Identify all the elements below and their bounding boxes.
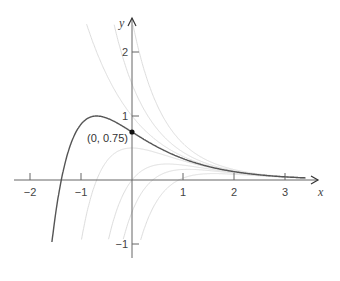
family-curve: [133, 25, 305, 178]
tick-marks: −2−1123−112: [24, 46, 288, 250]
x-tick-label: 1: [180, 186, 186, 198]
x-tick-label: −2: [24, 186, 37, 198]
family-curve: [141, 174, 306, 240]
initial-point-marker: [129, 129, 134, 134]
family-curve: [109, 164, 306, 239]
solution-curves-chart: −2−1123−112 x y (0, 0.75): [0, 0, 340, 281]
y-tick-label: 2: [122, 46, 128, 58]
family-curve: [114, 25, 305, 178]
y-tick-label: −1: [115, 238, 128, 250]
x-axis-label: x: [317, 185, 324, 199]
y-tick-label: 1: [122, 110, 128, 122]
initial-point-label: (0, 0.75): [87, 132, 128, 144]
x-tick-label: −1: [75, 186, 88, 198]
x-tick-label: 2: [231, 186, 237, 198]
y-axis-label: y: [118, 16, 125, 30]
x-tick-label: 3: [282, 186, 288, 198]
axes: −2−1123−112 x y: [14, 16, 324, 258]
